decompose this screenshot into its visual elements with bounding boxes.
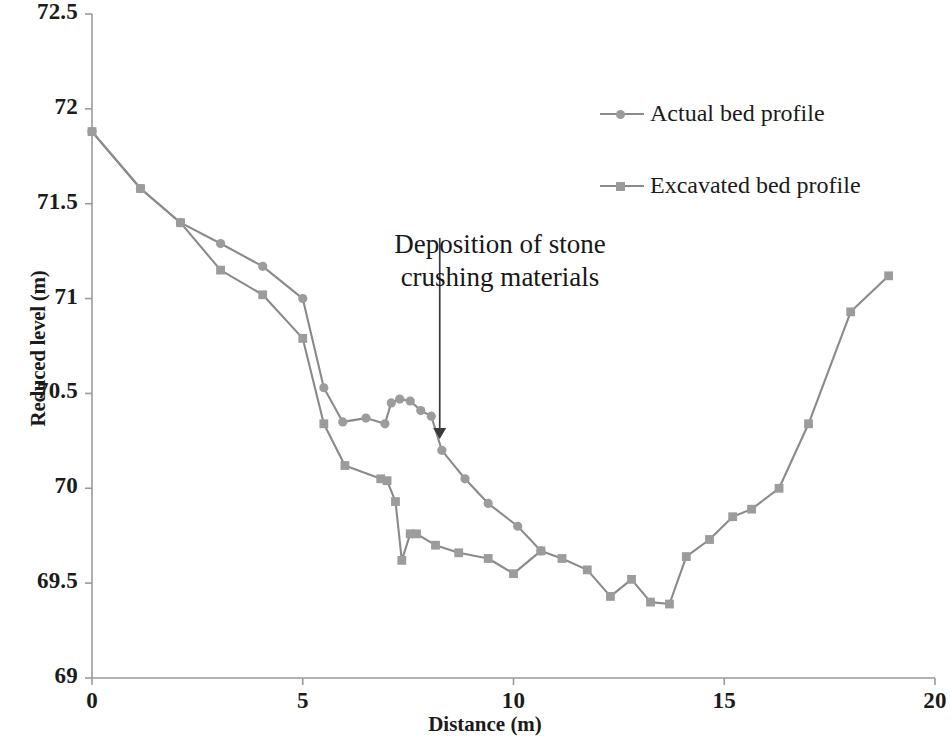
data-point-marker [216,239,225,248]
y-tick-label: 70 [0,473,78,499]
x-tick-label: 10 [474,688,554,714]
series-excavated-bed-profile [88,127,893,608]
data-point-marker [606,592,615,601]
data-point-marker [583,565,592,574]
data-point-marker [646,598,655,607]
data-point-marker [136,184,145,193]
data-point-marker [747,505,756,514]
data-point-marker [338,417,347,426]
data-point-marker [728,512,737,521]
data-point-marker [395,395,404,404]
data-point-marker [406,396,415,405]
y-tick-label: 69 [0,663,78,689]
legend-item-excavated-bed-profile[interactable]: Excavated bed profile [600,172,861,199]
data-point-marker [383,476,392,485]
legend-marker-circle-icon [600,107,644,121]
data-point-marker [319,419,328,428]
legend-label-actual: Actual bed profile [650,100,825,127]
data-point-marker [884,271,893,280]
x-tick-label: 0 [52,688,132,714]
data-point-marker [558,554,567,563]
data-point-marker [298,334,307,343]
data-point-marker [804,419,813,428]
data-point-marker [536,546,545,555]
data-point-marker [319,383,328,392]
data-point-marker [460,474,469,483]
data-point-marker [176,218,185,227]
data-point-marker [665,600,674,609]
arrow-head-icon [433,428,446,439]
data-point-marker [258,262,267,271]
data-point-marker [391,497,400,506]
data-point-marker [705,535,714,544]
data-point-marker [484,554,493,563]
data-point-marker [427,412,436,421]
data-point-marker [216,266,225,275]
data-point-marker [341,461,350,470]
data-point-marker [387,398,396,407]
y-tick-label: 71.5 [0,189,78,215]
data-point-marker [431,541,440,550]
y-tick-label: 69.5 [0,568,78,594]
data-point-marker [627,575,636,584]
data-point-marker [682,552,691,561]
data-point-marker [437,446,446,455]
data-point-marker [509,569,518,578]
y-axis-title: Reduced level (m) [26,249,51,449]
y-tick-label: 72 [0,94,78,120]
legend-marker-square-icon [600,179,644,193]
data-point-marker [454,548,463,557]
data-point-marker [380,419,389,428]
series-lines [87,127,893,608]
data-point-marker [484,499,493,508]
data-point-marker [412,529,421,538]
data-point-marker [397,556,406,565]
data-point-marker [775,484,784,493]
data-point-marker [88,127,97,136]
x-axis-title: Distance (m) [10,712,950,737]
series-actual-bed-profile [87,127,545,555]
x-tick-label: 15 [684,688,764,714]
chart-container: 72.57271.57170.57069.569 05101520 Reduce… [0,0,950,745]
data-point-marker [416,406,425,415]
data-point-marker [298,294,307,303]
data-point-marker [513,522,522,531]
x-tick-label: 20 [895,688,950,714]
legend-item-actual-bed-profile[interactable]: Actual bed profile [600,100,825,127]
y-tick-label: 72.5 [0,0,78,25]
legend-label-excavated: Excavated bed profile [650,172,861,199]
deposition-annotation-text: Deposition of stone crushing materials [340,228,660,294]
data-point-marker [846,307,855,316]
x-tick-label: 5 [263,688,343,714]
data-point-marker [361,413,370,422]
data-point-marker [258,290,267,299]
